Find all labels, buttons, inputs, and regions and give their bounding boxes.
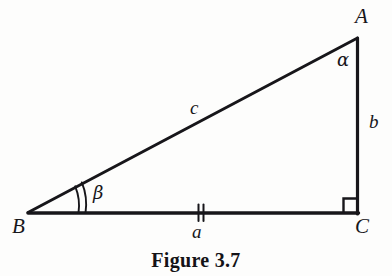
right-angle-marker-icon: [344, 199, 358, 214]
vertex-label-a: A: [355, 6, 368, 27]
side-label-a: a: [192, 222, 202, 241]
side-label-c: c: [190, 98, 198, 117]
angle-beta-arc-inner-icon: [75, 186, 79, 213]
vertex-label-b: B: [12, 216, 25, 237]
side-c-hypotenuse-line: [28, 38, 358, 213]
angle-beta-arc-outer-icon: [82, 182, 86, 213]
side-label-b: b: [369, 112, 379, 131]
figure-caption: Figure 3.7: [0, 249, 392, 272]
vertex-label-c: C: [355, 216, 369, 237]
angle-label-alpha: α: [337, 51, 349, 69]
angle-label-beta: β: [93, 184, 103, 202]
figure-canvas: A B C a b c α β Figure 3.7: [0, 0, 392, 276]
